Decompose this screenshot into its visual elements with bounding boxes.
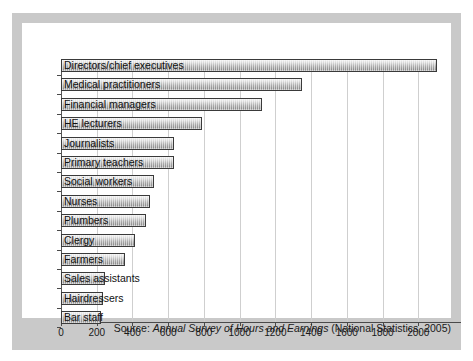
bar-category-label: Directors/chief executives bbox=[64, 59, 184, 72]
bar-category-label: Social workers bbox=[64, 175, 132, 188]
y-axis-tick bbox=[57, 308, 61, 309]
y-axis-tick bbox=[57, 153, 61, 154]
bar-category-label: Farmers bbox=[64, 253, 103, 266]
bar-category-label: Medical practitioners bbox=[64, 78, 160, 91]
y-axis-tick bbox=[57, 75, 61, 76]
y-axis-tick bbox=[57, 269, 61, 270]
bar-row: Nurses bbox=[61, 195, 454, 208]
bar-category-label: Hairdressers bbox=[64, 292, 124, 305]
bar-category-label: Primary teachers bbox=[64, 156, 143, 169]
y-axis-tick bbox=[57, 172, 61, 173]
bar-row: Social workers bbox=[61, 175, 454, 188]
bar-row: Financial managers bbox=[61, 98, 454, 111]
y-axis-tick bbox=[57, 230, 61, 231]
y-axis-tick bbox=[57, 211, 61, 212]
bar-category-label: HE lecturers bbox=[64, 117, 122, 130]
caption-prefix: Source: bbox=[114, 322, 153, 334]
bar-row: Journalists bbox=[61, 137, 454, 150]
bar-category-label: Journalists bbox=[64, 137, 114, 150]
bar-category-label: Plumbers bbox=[64, 214, 108, 227]
caption-suffix: (National Statistics, 2005) bbox=[328, 322, 451, 334]
source-caption: Source: Annual Survey of Hours and Earni… bbox=[22, 322, 451, 334]
chart-figure: 0200400600800100012001400160018002000 Di… bbox=[0, 0, 473, 361]
bar-category-label: Financial managers bbox=[64, 98, 156, 111]
bar-category-label: Nurses bbox=[64, 195, 97, 208]
bar-row: HE lecturers bbox=[61, 117, 454, 130]
y-axis-tick bbox=[57, 114, 61, 115]
chart-panel: 0200400600800100012001400160018002000 Di… bbox=[22, 23, 451, 318]
bar-row: Medical practitioners bbox=[61, 78, 454, 91]
bar-row: Hairdressers bbox=[61, 292, 454, 305]
bar-row: Farmers bbox=[61, 253, 454, 266]
bar-row: Plumbers bbox=[61, 214, 454, 227]
y-axis-tick bbox=[57, 191, 61, 192]
y-axis-tick bbox=[57, 94, 61, 95]
y-axis-tick bbox=[57, 250, 61, 251]
bar-category-label: Sales assistants bbox=[64, 272, 140, 285]
caption-publication-title: Annual Survey of Hours and Earnings bbox=[153, 322, 329, 334]
y-axis-tick bbox=[57, 288, 61, 289]
bar-row: Primary teachers bbox=[61, 156, 454, 169]
bar-row: Sales assistants bbox=[61, 272, 454, 285]
bar-category-label: Clergy bbox=[64, 234, 94, 247]
bar-row: Directors/chief executives bbox=[61, 59, 454, 72]
y-axis-tick bbox=[57, 133, 61, 134]
bar-row: Clergy bbox=[61, 234, 454, 247]
